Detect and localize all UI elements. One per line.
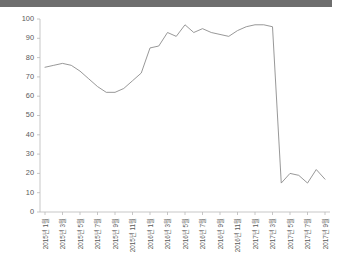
line-chart: 0102030405060708090100 2015년 1월2015년 3월2… (0, 7, 338, 274)
x-tick-label: 2016년 5월 (181, 218, 189, 249)
x-tick-label: 2015년 3월 (58, 218, 66, 249)
y-tick-label: 0 (30, 207, 34, 216)
chart-canvas: 0102030405060708090100 2015년 1월2015년 3월2… (0, 7, 338, 274)
y-tick-label: 50 (26, 110, 34, 119)
y-tick-label: 100 (22, 14, 34, 23)
window-top-bar (0, 0, 332, 7)
x-tick-label: 2015년 5월 (76, 218, 84, 249)
data-series-line (45, 25, 325, 183)
x-tick-label: 2017년 3월 (268, 218, 276, 249)
x-tick-label: 2017년 1월 (251, 218, 259, 249)
x-tick-label: 2016년 11월 (233, 218, 241, 252)
y-tick-label: 20 (26, 168, 34, 177)
x-tick-label: 2017년 7월 (303, 218, 311, 249)
x-tick-label: 2015년 7월 (93, 218, 101, 249)
y-tick-label: 10 (26, 188, 34, 197)
screenshot-root: 0102030405060708090100 2015년 1월2015년 3월2… (0, 0, 338, 274)
y-tick-label: 60 (26, 91, 34, 100)
x-tick-label: 2016년 3월 (163, 218, 171, 249)
x-tick-label: 2016년 7월 (198, 218, 206, 249)
y-tick-label: 70 (26, 72, 34, 81)
x-tick-label: 2016년 1월 (146, 218, 154, 249)
y-tick-label: 80 (26, 53, 34, 62)
x-tick-label: 2017년 9월 (321, 218, 329, 249)
y-axis-ticks: 0102030405060708090100 (22, 14, 40, 216)
x-tick-label: 2016년 9월 (216, 218, 224, 249)
y-tick-label: 40 (26, 130, 34, 139)
x-tick-label: 2017년 5월 (286, 218, 294, 249)
x-axis-ticks: 2015년 1월2015년 3월2015년 5월2015년 7월2015년 9월… (41, 212, 329, 252)
y-tick-label: 90 (26, 33, 34, 42)
x-tick-label: 2015년 11월 (128, 218, 136, 252)
y-tick-label: 30 (26, 149, 34, 158)
x-tick-label: 2015년 1월 (41, 218, 49, 249)
x-tick-label: 2015년 9월 (111, 218, 119, 249)
